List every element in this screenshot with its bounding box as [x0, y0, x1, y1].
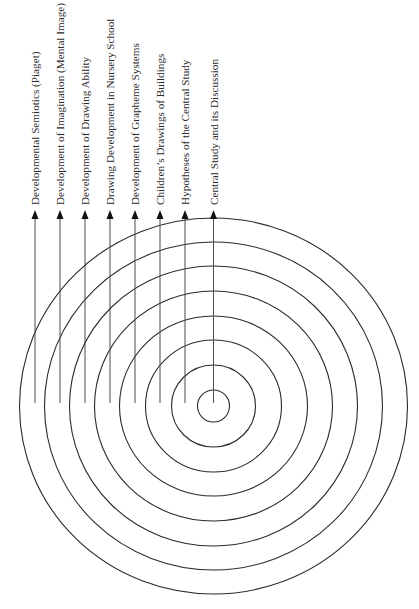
label-development-of-imagination: Development of Imagination (Mental Image…: [54, 3, 66, 205]
arrowhead-icon: [132, 210, 139, 219]
arrowhead-icon: [32, 210, 39, 219]
arrowhead-icon: [82, 210, 89, 219]
arrowhead-icon: [157, 210, 164, 219]
label-developmental-semiotics: Developmental Semiotics (Piaget): [29, 52, 41, 205]
label-development-of-drawing-ability: Development of Drawing Ability: [79, 57, 91, 205]
label-central-study-discussion: Central Study and its Discussion: [208, 59, 220, 205]
arrowhead-icon: [210, 210, 217, 219]
label-hypotheses-of-central-study: Hypotheses of the Central Study: [179, 60, 191, 205]
arrowhead-icon: [107, 210, 114, 219]
arrowhead-icon: [57, 210, 64, 219]
label-development-of-grapheme-systems: Development of Grapheme Systems: [129, 43, 141, 205]
label-childrens-drawings-of-buildings: Children’s Drawings of Buildings: [154, 54, 166, 205]
arrowhead-icon: [182, 210, 189, 219]
label-drawing-development-nursery: Drawing Development in Nursery School: [104, 19, 116, 205]
